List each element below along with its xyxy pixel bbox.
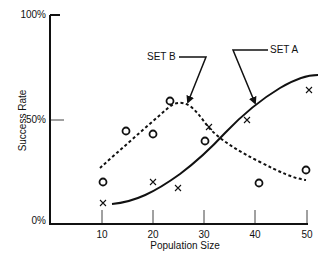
set-b-label: SET B: [147, 51, 176, 62]
set-b-markers: [100, 98, 310, 187]
set-b-point: [150, 131, 157, 138]
x-tick-label-40: 40: [240, 229, 270, 241]
set-a-markers: [100, 87, 312, 206]
set-b-point: [123, 128, 130, 135]
y-axis-title: Success Rate: [17, 71, 28, 171]
set-b-point: [256, 180, 263, 187]
x-tick-label-50: 50: [292, 229, 322, 241]
set-a-point: [150, 179, 156, 185]
set-a-label: SET A: [270, 44, 298, 55]
y-tick-label-0: 0%: [0, 215, 46, 227]
x-tick-label-10: 10: [87, 229, 117, 241]
set-a-point: [306, 87, 312, 93]
x-axis-title: Population Size: [130, 240, 240, 251]
set-a-curve: [112, 75, 318, 204]
set-b-point: [202, 138, 209, 145]
set-a-point: [100, 200, 106, 206]
set-a-point: [244, 117, 250, 123]
set-a-callout-arrow: [233, 50, 268, 103]
set-b-point: [303, 167, 310, 174]
set-b-curve: [100, 103, 306, 180]
set-b-point: [167, 98, 174, 105]
set-b-point: [100, 179, 107, 186]
set-a-point: [175, 185, 181, 191]
set-b-callout-arrow: [179, 57, 206, 102]
callouts: [179, 50, 268, 103]
y-tick-label-100: 100%: [0, 9, 46, 21]
